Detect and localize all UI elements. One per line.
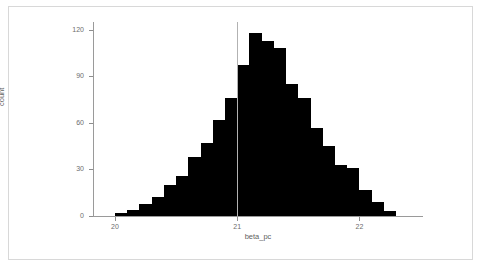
histogram-bar	[286, 84, 298, 216]
histogram-bar	[347, 168, 359, 216]
histogram-bar	[127, 210, 139, 216]
histogram-bar	[384, 211, 396, 216]
histogram-bar	[201, 143, 213, 216]
y-tick-label: 30	[60, 165, 84, 173]
y-axis-title: count	[0, 88, 6, 106]
histogram-bar	[249, 33, 261, 216]
histogram-bar	[213, 120, 225, 216]
histogram-bar	[139, 204, 151, 216]
x-tick-mark	[359, 217, 360, 221]
y-tick-label: 120	[60, 26, 84, 34]
histogram-bar	[323, 146, 335, 216]
histogram-bar	[372, 202, 384, 216]
x-tick-label: 20	[103, 223, 127, 231]
histogram-bar	[188, 157, 200, 216]
histogram-bar	[359, 190, 371, 216]
histogram-bar	[225, 98, 237, 216]
histogram-bar	[176, 176, 188, 216]
histogram-bar	[237, 65, 249, 216]
screenshot-root: count beta_pc 0306090120 202122	[0, 0, 483, 268]
histogram-svg	[93, 22, 423, 216]
x-tick-mark	[115, 217, 116, 221]
y-tick-label: 0	[60, 212, 84, 220]
x-axis-title: beta_pc	[93, 232, 423, 241]
histogram-bar	[164, 185, 176, 216]
y-tick-label: 90	[60, 72, 84, 80]
y-tick-label: 60	[60, 119, 84, 127]
histogram-bar	[311, 128, 323, 216]
x-tick-mark	[237, 217, 238, 221]
histogram-bar	[115, 213, 127, 216]
y-tick-mark	[89, 216, 93, 217]
x-tick-label: 21	[225, 223, 249, 231]
histogram-bar	[298, 98, 310, 216]
histogram-bars	[115, 33, 396, 216]
histogram-bar	[274, 48, 286, 216]
histogram-bar	[262, 41, 274, 216]
x-tick-label: 22	[347, 223, 371, 231]
histogram-bar	[152, 197, 164, 216]
histogram-bar	[335, 165, 347, 216]
plot-area	[93, 22, 423, 216]
x-axis-line	[93, 216, 423, 217]
